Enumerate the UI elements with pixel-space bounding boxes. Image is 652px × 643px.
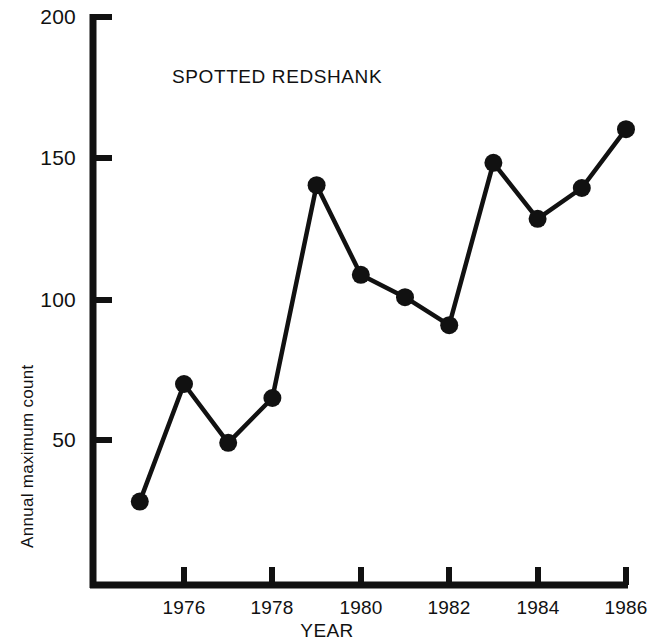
chart-title: SPOTTED REDSHANK bbox=[172, 66, 382, 88]
data-point bbox=[219, 434, 237, 452]
y-axis-title: Annual maximum count bbox=[18, 364, 38, 548]
data-point bbox=[440, 316, 458, 334]
data-point bbox=[352, 266, 370, 284]
x-axis-title: YEAR bbox=[300, 620, 353, 642]
data-point bbox=[484, 154, 502, 172]
data-series-markers bbox=[131, 120, 635, 510]
data-point bbox=[573, 179, 591, 197]
data-point bbox=[529, 210, 547, 228]
data-point bbox=[175, 375, 193, 393]
x-tick-label-1978: 1978 bbox=[232, 597, 312, 619]
x-tick-label-1984: 1984 bbox=[498, 597, 578, 619]
x-tick-label-1986: 1986 bbox=[586, 597, 652, 619]
x-tick-label-1982: 1982 bbox=[409, 597, 489, 619]
data-point bbox=[617, 120, 635, 138]
x-tick-label-1980: 1980 bbox=[321, 597, 401, 619]
data-point bbox=[308, 176, 326, 194]
axis-spines bbox=[90, 14, 628, 588]
y-tick-label-200: 200 bbox=[18, 5, 76, 29]
y-tick-label-150: 150 bbox=[18, 146, 76, 170]
y-tick-label-100: 100 bbox=[18, 288, 76, 312]
data-point bbox=[131, 493, 149, 511]
x-tick-label-1976: 1976 bbox=[144, 597, 224, 619]
data-point bbox=[263, 389, 281, 407]
data-series-line bbox=[140, 129, 626, 501]
data-point bbox=[396, 288, 414, 306]
